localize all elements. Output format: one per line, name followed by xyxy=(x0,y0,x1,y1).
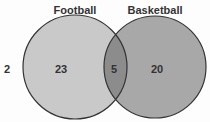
football-only-count: 23 xyxy=(55,63,67,75)
intersection-count: 5 xyxy=(111,63,117,75)
basketball-only-count: 20 xyxy=(151,63,163,75)
basketball-label: Basketball xyxy=(127,4,182,16)
outside-count: 2 xyxy=(4,63,10,75)
football-label: Football xyxy=(54,4,97,16)
venn-svg: Football Basketball 2 23 5 20 xyxy=(0,0,210,122)
venn-diagram: Football Basketball 2 23 5 20 xyxy=(0,0,210,122)
